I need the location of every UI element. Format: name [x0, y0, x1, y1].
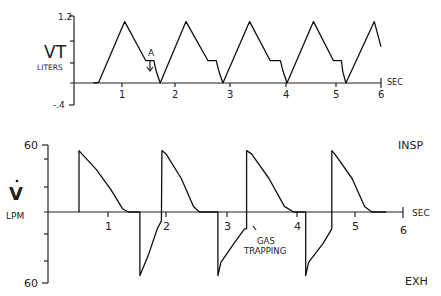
arrow-up-left-icon — [253, 226, 256, 230]
gas-trapping-label-line1: GAS — [257, 236, 275, 246]
volume-xtick: 5 — [333, 89, 339, 100]
flow-xtick: 2 — [163, 220, 170, 233]
volume-xtick: 4 — [283, 89, 289, 100]
volume-xtick: 1 — [119, 89, 125, 100]
volume-xtick: 2 — [172, 89, 178, 100]
flow-y-unit: LPM — [6, 211, 24, 221]
volume-trace — [93, 22, 381, 83]
flow-xtick: 4 — [294, 220, 301, 233]
volume-y-unit: LITERS — [37, 63, 63, 72]
flow-xtick: 1 — [105, 220, 112, 233]
flow-xtick: 3 — [224, 220, 231, 233]
volume-ytick-bottom: -.4 — [53, 100, 65, 110]
volume-ytick-top: 1.2 — [58, 12, 72, 22]
volume-x-label: SEC — [387, 78, 403, 87]
gas-trapping-label-line2: TRAPPING — [243, 246, 286, 256]
flow-y-label: V — [9, 183, 23, 204]
flow-xtick: 5 — [352, 220, 359, 233]
dot-icon — [16, 180, 19, 183]
figure-canvas: 1.2 -.4 1 2 3 4 5 6 SEC VT LITERS A 60 — [0, 0, 441, 296]
insp-label: INSP — [398, 139, 423, 152]
flow-x-label: SEC — [412, 208, 430, 218]
volume-y-label: VT — [44, 42, 67, 62]
flow-ytick-bottom: 60 — [24, 277, 38, 290]
flow-trace — [79, 151, 386, 276]
exh-label: EXH — [405, 275, 428, 288]
volume-chart: 1.2 -.4 1 2 3 4 5 6 SEC VT LITERS A — [37, 12, 403, 110]
flow-xtick: 6 — [400, 224, 407, 237]
volume-xtick: 6 — [378, 89, 384, 100]
volume-xtick: 3 — [227, 89, 233, 100]
flow-ytick-top: 60 — [24, 139, 38, 152]
annotation-a: A — [148, 48, 155, 58]
flow-chart: 60 60 1 2 3 4 5 6 SEC INSP EXH V LPM GAS… — [6, 139, 430, 290]
